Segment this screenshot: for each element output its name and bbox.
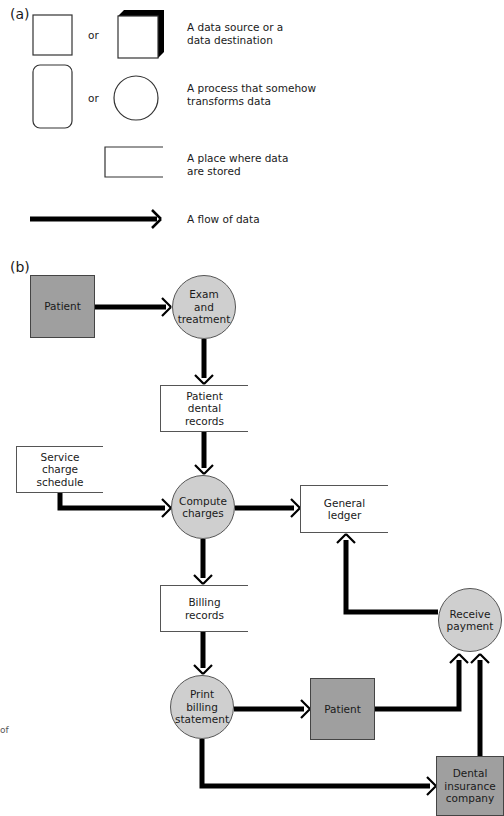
legend-or-2: or (88, 92, 99, 105)
patient-entity-2-label: Patient (324, 703, 361, 716)
general-ledger-store: General ledger (300, 485, 388, 533)
patient-dental-records-store: Patient dental records (160, 385, 248, 432)
legend-3d-box-icon (118, 10, 164, 58)
dental-insurance-company-label: Dental insurance company (444, 767, 495, 805)
legend-square-icon (33, 15, 72, 55)
margin-text-fragment: of (0, 724, 9, 737)
patient-entity-label: Patient (44, 300, 81, 313)
exam-treatment-process: Exam and treatment (172, 275, 236, 339)
legend-rounded-rect-icon (33, 65, 72, 128)
receive-payment-process: Receive payment (438, 588, 502, 652)
compute-charges-process: Compute charges (171, 475, 235, 539)
legend-store-description: A place where data are stored (187, 152, 288, 177)
patient-dental-records-label: Patient dental records (185, 390, 224, 428)
print-billing-statement-label: Print billing statement (175, 688, 229, 726)
flow-lines (60, 307, 480, 786)
exam-treatment-label: Exam and treatment (178, 288, 231, 326)
patient-entity: Patient (30, 275, 95, 338)
part-a-label: (a) (10, 6, 30, 22)
legend-circle-icon (114, 76, 158, 120)
part-b-label: (b) (10, 259, 30, 275)
patient-entity-2: Patient (310, 678, 375, 740)
service-charge-schedule-label: Service charge schedule (36, 451, 83, 489)
dental-insurance-company-entity: Dental insurance company (436, 756, 504, 816)
billing-records-store: Billing records (160, 585, 248, 632)
legend-flow-description: A flow of data (187, 213, 260, 226)
legend-source-description: A data source or a data destination (187, 21, 283, 46)
legend-store-icon (105, 147, 163, 177)
general-ledger-label: General ledger (324, 497, 365, 522)
legend-process-description: A process that somehow transforms data (187, 82, 316, 107)
billing-records-label: Billing records (185, 596, 224, 621)
legend-flow-arrow-icon (30, 210, 161, 228)
receive-payment-label: Receive payment (447, 608, 494, 633)
legend-or-1: or (88, 29, 99, 42)
service-charge-schedule-store: Service charge schedule (16, 446, 103, 493)
compute-charges-label: Compute charges (179, 495, 227, 520)
print-billing-statement-process: Print billing statement (170, 675, 234, 739)
